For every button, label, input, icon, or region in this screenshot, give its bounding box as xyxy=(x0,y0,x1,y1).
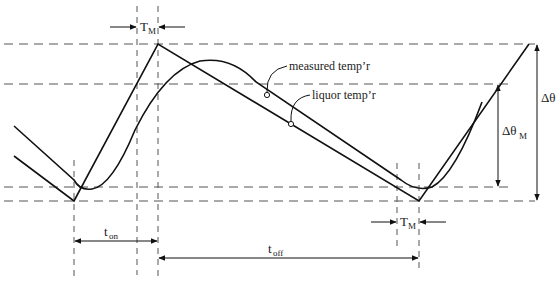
delta-theta-m-dimension: Δθ M xyxy=(498,85,527,186)
tm-top-label: T xyxy=(140,19,148,34)
t-on-label: t xyxy=(104,224,108,239)
delta-theta-dimension: Δθ xyxy=(537,45,556,200)
temperature-lag-diagram: T M T M t on t off Δθ M Δθ measured temp… xyxy=(0,0,560,282)
tm-bottom-sub: M xyxy=(408,221,416,231)
tm-bottom-label: T xyxy=(400,214,408,229)
measured-leader xyxy=(267,66,287,92)
delta-theta-m-label: Δθ xyxy=(502,123,517,138)
t-off-label: t xyxy=(268,241,272,256)
measured-point-marker xyxy=(264,92,269,97)
liquor-temp-curve xyxy=(14,44,529,201)
tm-top-dimension: T M xyxy=(110,19,185,36)
t-on-dimension: t on xyxy=(75,224,157,241)
measured-temp-curve xyxy=(14,60,482,189)
liquor-point-marker xyxy=(288,121,293,126)
liquor-label: liquor temp’r xyxy=(312,88,376,102)
delta-theta-m-sub: M xyxy=(519,131,527,141)
delta-theta-label: Δθ xyxy=(541,90,556,105)
liquor-annotation: liquor temp’r xyxy=(288,88,375,127)
t-off-sub: off xyxy=(273,248,283,258)
horizontal-guides xyxy=(4,44,535,201)
tm-top-sub: M xyxy=(148,26,156,36)
t-on-sub: on xyxy=(109,231,119,241)
tm-bottom-dimension: T M xyxy=(371,214,446,231)
t-off-dimension: t off xyxy=(159,241,418,258)
vertical-guides xyxy=(74,6,419,280)
measured-label: measured temp’r xyxy=(289,59,370,73)
